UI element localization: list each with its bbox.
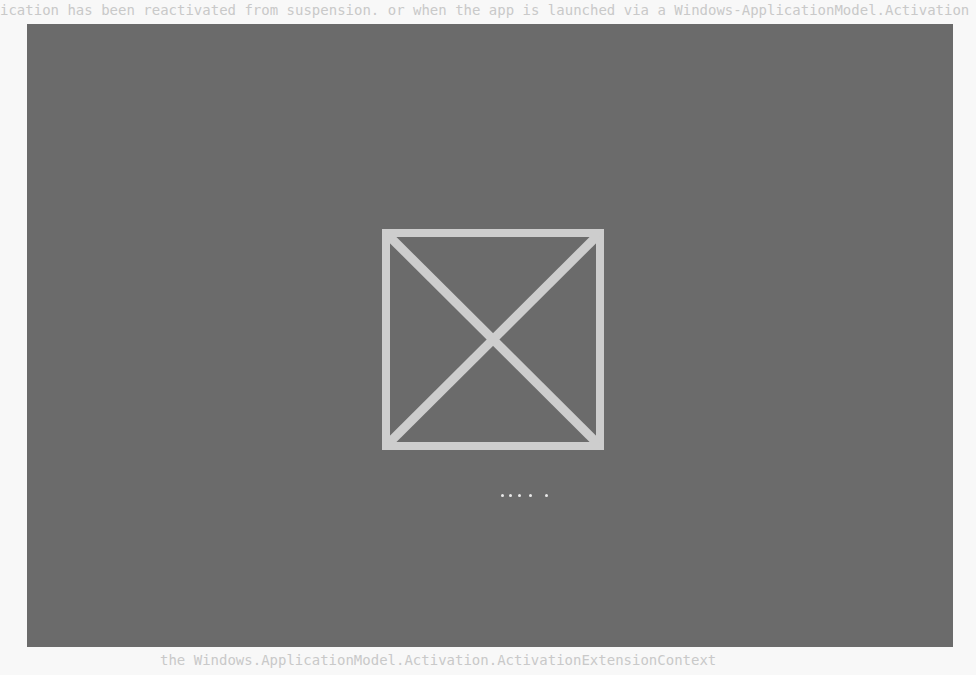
background-document-text-top: ication has been reactivated from suspen… [0,2,976,18]
background-document-text-bottom: the Windows.ApplicationModel.Activation.… [0,652,976,668]
app-splash-screen [27,24,953,647]
progress-dot-icon [545,494,548,497]
progress-dot-icon [529,494,532,497]
page: ication has been reactivated from suspen… [0,0,976,675]
progress-dot-icon [518,494,521,497]
progress-dot-icon [501,494,504,497]
loading-progress-dots [497,494,557,500]
placeholder-app-icon [382,229,604,450]
progress-dot-icon [509,494,512,497]
